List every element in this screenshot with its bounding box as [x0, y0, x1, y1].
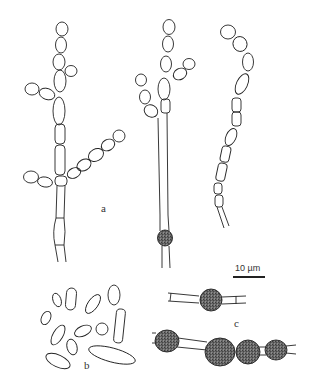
chlamydospore-hypha-top	[168, 289, 246, 311]
chlamydospore-hypha-bottom	[152, 330, 296, 366]
scale-bar-label: 10 µm	[235, 263, 260, 273]
figure-drawing	[0, 0, 315, 392]
conidiophore-left	[24, 22, 126, 262]
conidiophore-middle	[136, 20, 196, 269]
panel-label-b: b	[84, 359, 90, 371]
panel-label-c: c	[234, 317, 239, 329]
panel-label-a: a	[101, 202, 106, 214]
conidial-chain-right	[214, 25, 254, 228]
scale-bar	[233, 276, 265, 278]
